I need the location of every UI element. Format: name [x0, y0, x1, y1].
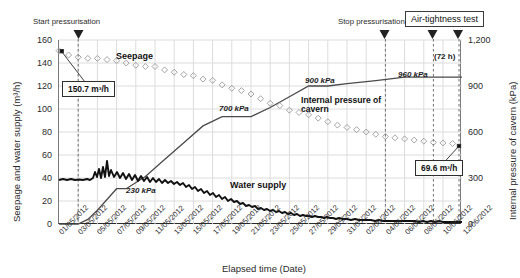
y-tick-40: 40 [18, 173, 52, 183]
chart-figure: Seepage and water supply (m³/h) Internal… [0, 0, 520, 278]
plot-area [58, 40, 461, 224]
callout-leaders [60, 50, 461, 171]
y-tick-60: 60 [18, 150, 52, 160]
duration-72h-label: (72 h) [434, 52, 455, 61]
annotation-700-kpa: 700 kPa [219, 104, 249, 113]
series-internal-pressure [59, 77, 462, 224]
marker-triangle-test-end [453, 30, 463, 39]
x-axis-title: Elapsed time (Date) [222, 263, 306, 274]
event-label-stop-pressurisation: Stop pressurisation [338, 17, 405, 26]
event-label-air-tightness-test: Air-tightness test [405, 11, 484, 27]
event-label-start-pressurisation: Start pressurisation [33, 17, 100, 26]
y-tick-120: 120 [18, 81, 52, 91]
marker-triangle-test-start [428, 30, 438, 39]
annotation-900-kpa: 900 kPa [305, 76, 335, 85]
y2-tick-600: 600 [468, 127, 508, 137]
y-tick-140: 140 [18, 58, 52, 68]
plot-svg [59, 40, 462, 224]
y2-tick-900: 900 [468, 81, 508, 91]
series-label-water-supply: Water supply [230, 180, 286, 190]
annotation-960-kpa: 960 kPa [398, 70, 428, 79]
marker-triangle-stop [380, 30, 390, 39]
series-label-internal-pressure-line2: cavern [301, 104, 329, 114]
y-tick-100: 100 [18, 104, 52, 114]
y2-tick-1200: 1,200 [468, 35, 508, 45]
callout-seepage-start: 150.7 m³/h [62, 81, 115, 97]
y2-tick-300: 300 [468, 173, 508, 183]
y-tick-0: 0 [18, 219, 52, 229]
series-label-internal-pressure: Internal pressure of cavern [301, 96, 381, 114]
y-tick-80: 80 [18, 127, 52, 137]
series-label-seepage: Seepage [116, 51, 153, 61]
y-tick-160: 160 [18, 35, 52, 45]
callout-seepage-end: 69.6 m³/h [415, 160, 463, 176]
y2-axis-title: Internal pressure of cavern (kPa) [507, 82, 518, 220]
annotation-230-kpa: 230 kPa [126, 186, 156, 195]
y-tick-20: 20 [18, 196, 52, 206]
